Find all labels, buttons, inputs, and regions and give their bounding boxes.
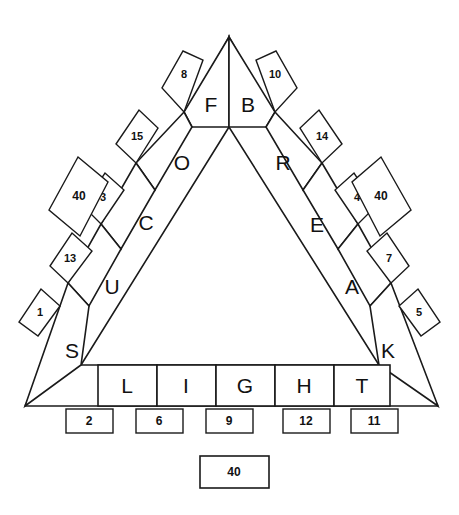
right-number-10: 10	[269, 68, 281, 80]
left-number-13: 13	[64, 252, 76, 264]
bottom-number-6: 6	[156, 414, 163, 428]
bottom-row-number-tiles: 2 6 9 12 11	[66, 409, 398, 433]
total-right-value: 40	[374, 189, 388, 203]
right-cell-B-letter: B	[241, 93, 255, 116]
right-cell-E-letter: E	[310, 213, 324, 236]
left-number-1: 1	[37, 306, 43, 318]
right-number-7: 7	[386, 252, 392, 264]
right-number-5: 5	[416, 306, 422, 318]
left-cell-O-letter: O	[174, 151, 190, 174]
right-number-14: 14	[316, 130, 329, 142]
puzzle-diagram: F O C U S 8 15 3 13 1 B	[0, 0, 459, 515]
bottom-number-12: 12	[299, 414, 313, 428]
bottom-number-11: 11	[368, 414, 381, 428]
right-edge-cells: B R E A K	[229, 37, 438, 406]
left-number-15: 15	[131, 130, 143, 142]
bottom-cell-T-letter: T	[356, 374, 369, 397]
total-bottom-value: 40	[227, 465, 241, 479]
left-cell-C-letter: C	[138, 211, 153, 234]
left-number-8: 8	[181, 68, 187, 80]
bottom-cell-I-letter: I	[183, 374, 189, 397]
bottom-cell-L-letter: L	[121, 374, 133, 397]
right-cell-R-letter: R	[275, 151, 290, 174]
inner-triangle	[81, 127, 379, 365]
total-left-value: 40	[72, 189, 86, 203]
left-cell-U-letter: U	[104, 275, 119, 298]
bottom-number-9: 9	[226, 414, 233, 428]
puzzle-canvas: F O C U S 8 15 3 13 1 B	[0, 0, 459, 515]
left-edge-cells: F O C U S	[25, 37, 229, 406]
right-cell-A-letter: A	[345, 275, 359, 298]
right-cell-K-letter: K	[381, 339, 395, 362]
bottom-number-2: 2	[86, 414, 93, 428]
bottom-cell-G-letter: G	[237, 374, 253, 397]
bottom-cell-H-letter: H	[296, 374, 311, 397]
left-cell-S-letter: S	[65, 339, 79, 362]
left-cell-F-letter: F	[205, 93, 218, 116]
bottom-row-cells: L I G H T	[98, 365, 390, 406]
